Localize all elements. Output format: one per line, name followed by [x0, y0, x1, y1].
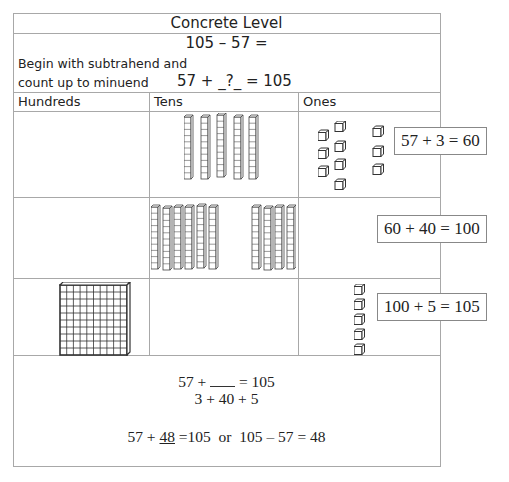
col-divider-hundreds-tens — [149, 92, 150, 356]
header-bottom-divider — [13, 111, 441, 112]
count-up-equation: 57 + _?_ = 105 — [177, 73, 292, 90]
answer-blank — [210, 372, 235, 387]
column-header-tens: Tens — [154, 93, 183, 111]
summary-equation-line-1: 57 + = 105 — [13, 372, 440, 391]
problem-statement: 105 – 57 = — [13, 34, 440, 53]
step-equation-box-2: 60 + 40 = 100 — [377, 215, 487, 243]
row1-bottom-divider — [13, 197, 441, 198]
hundreds-flat — [59, 282, 131, 356]
answer-value: 48 — [159, 428, 175, 445]
col-divider-tens-ones — [298, 92, 299, 356]
row2-bottom-divider — [13, 278, 441, 279]
ones-cubes-group-row1 — [318, 121, 398, 191]
step-equation-box-3: 100 + 5 = 105 — [377, 293, 487, 321]
column-header-ones: Ones — [303, 93, 336, 111]
summary-line1-left: 57 + — [178, 373, 206, 390]
summary-line3-right: =105 or 105 – 57 = 48 — [179, 428, 326, 445]
instruction-line-1: Begin with subtrahend and — [18, 56, 187, 71]
worksheet-title: Concrete Level — [13, 14, 440, 33]
summary-addends-line: 3 + 40 + 5 — [13, 390, 440, 408]
summary-line1-right: = 105 — [239, 373, 275, 390]
instruction-line-2: count up to minuend — [18, 75, 149, 90]
table-bottom-border — [13, 466, 441, 467]
tens-rods-group-row1 — [184, 113, 264, 181]
ones-cubes-group-row3 — [354, 284, 368, 356]
column-header-hundreds: Hundreds — [18, 93, 81, 111]
summary-line3-left: 57 + — [127, 428, 155, 445]
tens-rods-group-row2 — [151, 203, 296, 273]
summary-answer-line: 57 + 48 =105 or 105 – 57 = 48 — [13, 428, 440, 446]
step-equation-box-1: 57 + 3 = 60 — [394, 127, 487, 155]
